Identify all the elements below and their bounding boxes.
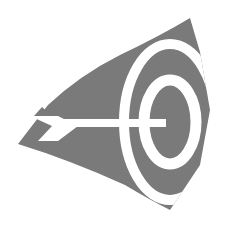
target-arrow-icon: [0, 0, 227, 233]
target-arrow-logo: Target with arrow logo: [0, 0, 227, 233]
